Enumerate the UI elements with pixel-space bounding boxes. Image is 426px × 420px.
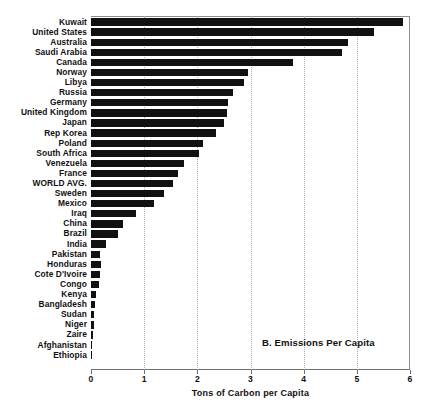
bar-row: Germany bbox=[0, 98, 426, 108]
bar bbox=[91, 140, 203, 147]
bar-category-label: Mexico bbox=[0, 198, 87, 208]
bar-track bbox=[91, 240, 410, 247]
bar-track bbox=[91, 261, 410, 268]
bar bbox=[91, 160, 184, 167]
bar-category-label: Kenya bbox=[0, 289, 87, 299]
bar-category-label: Bangladesh bbox=[0, 299, 87, 309]
bar-row: Sweden bbox=[0, 189, 426, 199]
bar-row: United Kingdom bbox=[0, 108, 426, 118]
bar-track bbox=[91, 160, 410, 167]
bar bbox=[91, 119, 224, 126]
bar-row: South Africa bbox=[0, 148, 426, 158]
bar-category-label: Pakistan bbox=[0, 249, 87, 259]
bar-row: India bbox=[0, 239, 426, 249]
bar bbox=[91, 69, 248, 76]
x-axis-tick-labels: 0123456 bbox=[91, 374, 410, 386]
bar-track bbox=[91, 69, 410, 76]
bar-row: Russia bbox=[0, 88, 426, 98]
bar bbox=[91, 341, 92, 348]
bar bbox=[91, 59, 293, 66]
bar-row: Honduras bbox=[0, 259, 426, 269]
bar-row: Ethiopia bbox=[0, 350, 426, 360]
bar-row: France bbox=[0, 168, 426, 178]
bar-track bbox=[91, 119, 410, 126]
bar-row: Australia bbox=[0, 37, 426, 47]
bar bbox=[91, 49, 342, 56]
bar bbox=[91, 150, 199, 157]
bar-category-label: Niger bbox=[0, 319, 87, 329]
bar-category-label: Poland bbox=[0, 138, 87, 148]
bar-row: Canada bbox=[0, 57, 426, 67]
bar bbox=[91, 251, 100, 258]
emissions-per-capita-chart: KuwaitUnited StatesAustraliaSaudi Arabia… bbox=[0, 0, 426, 420]
bar-category-label: Germany bbox=[0, 97, 87, 107]
x-tick-label: 4 bbox=[301, 374, 306, 385]
bar-track bbox=[91, 220, 410, 227]
x-axis-title: Tons of Carbon per Capita bbox=[91, 388, 410, 398]
bar-track bbox=[91, 150, 410, 157]
bar bbox=[91, 331, 93, 338]
bar-category-label: Russia bbox=[0, 87, 87, 97]
bar-category-label: Brazil bbox=[0, 228, 87, 238]
bar-category-label: Canada bbox=[0, 57, 87, 67]
bar-row: Niger bbox=[0, 320, 426, 330]
bar bbox=[91, 351, 92, 358]
bar-category-label: Ethiopia bbox=[0, 350, 87, 360]
bar-row: United States bbox=[0, 27, 426, 37]
x-tick-label: 5 bbox=[354, 374, 359, 385]
bar-row: Kenya bbox=[0, 290, 426, 300]
bar-track bbox=[91, 200, 410, 207]
bar-row: Saudi Arabia bbox=[0, 47, 426, 57]
x-tick-label: 6 bbox=[408, 374, 413, 385]
bar-row: Kuwait bbox=[0, 17, 426, 27]
bar-track bbox=[91, 281, 410, 288]
bar-track bbox=[91, 210, 410, 217]
bar-category-label: Kuwait bbox=[0, 17, 87, 27]
bar-row: Norway bbox=[0, 67, 426, 77]
bar-category-label: India bbox=[0, 239, 87, 249]
bar-category-label: Congo bbox=[0, 279, 87, 289]
bar-track bbox=[91, 291, 410, 298]
bar-category-label: China bbox=[0, 218, 87, 228]
bar bbox=[91, 39, 348, 46]
bar-track bbox=[91, 59, 410, 66]
bar bbox=[91, 321, 94, 328]
bar bbox=[91, 230, 118, 237]
bar bbox=[91, 291, 96, 298]
bar-track bbox=[91, 89, 410, 96]
bar-track bbox=[91, 351, 410, 358]
bar-track bbox=[91, 271, 410, 278]
x-tick-label: 2 bbox=[195, 374, 200, 385]
bar-row: Japan bbox=[0, 118, 426, 128]
bar-track bbox=[91, 301, 410, 308]
bar-track bbox=[91, 230, 410, 237]
bar-category-label: Rep Korea bbox=[0, 128, 87, 138]
bar-category-label: United States bbox=[0, 27, 87, 37]
bar bbox=[91, 170, 178, 177]
bar-track bbox=[91, 18, 410, 25]
bar-row: Sudan bbox=[0, 310, 426, 320]
bar bbox=[91, 109, 227, 116]
bar-category-label: Cote D'Ivoire bbox=[0, 269, 87, 279]
bar-row: WORLD AVG. bbox=[0, 179, 426, 189]
bar-category-label: Australia bbox=[0, 37, 87, 47]
bar-row: Rep Korea bbox=[0, 128, 426, 138]
bar-row: Mexico bbox=[0, 199, 426, 209]
bar bbox=[91, 261, 101, 268]
bar-category-label: Norway bbox=[0, 67, 87, 77]
bar-row: China bbox=[0, 219, 426, 229]
bar bbox=[91, 311, 94, 318]
bar bbox=[91, 180, 173, 187]
bar-category-label: United Kingdom bbox=[0, 107, 87, 117]
bar-track bbox=[91, 39, 410, 46]
x-tick-label: 3 bbox=[248, 374, 253, 385]
bar-category-label: Saudi Arabia bbox=[0, 47, 87, 57]
bar-track bbox=[91, 311, 410, 318]
bar bbox=[91, 220, 123, 227]
bar-track bbox=[91, 321, 410, 328]
bar-track bbox=[91, 140, 410, 147]
bar-category-label: Iraq bbox=[0, 208, 87, 218]
bar-row: Brazil bbox=[0, 229, 426, 239]
bar-category-label: South Africa bbox=[0, 148, 87, 158]
bar-category-label: Honduras bbox=[0, 259, 87, 269]
